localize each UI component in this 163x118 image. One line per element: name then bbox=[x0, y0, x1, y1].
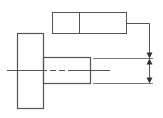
arrow-up-icon bbox=[147, 59, 153, 65]
leader-line bbox=[127, 24, 150, 56]
arrow-down-icon bbox=[147, 53, 153, 59]
frame-border bbox=[53, 13, 127, 34]
technical-drawing bbox=[0, 0, 163, 118]
feature-control-frame bbox=[53, 13, 127, 34]
arrow-down-icon bbox=[147, 78, 153, 84]
